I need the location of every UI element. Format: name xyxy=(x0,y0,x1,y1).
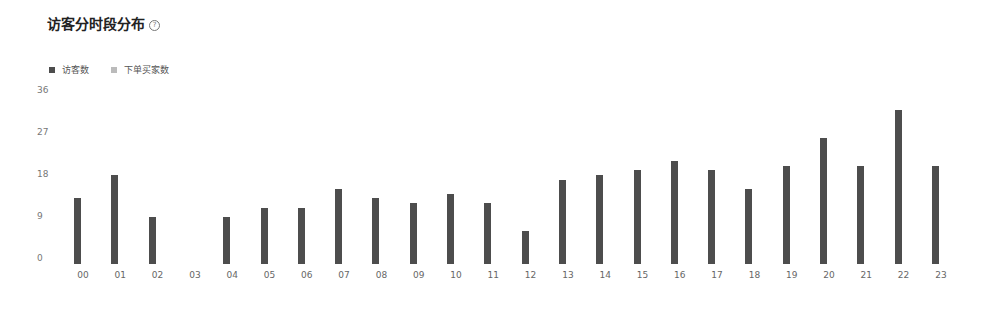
bar-visitors-04[interactable] xyxy=(223,217,230,264)
y-axis-tick-label: 0 xyxy=(37,253,43,263)
y-axis-tick-label: 36 xyxy=(37,85,48,95)
bar-visitors-00[interactable] xyxy=(74,198,81,264)
x-axis-tick-label: 21 xyxy=(851,270,881,280)
x-axis-tick-label: 04 xyxy=(217,270,247,280)
bar-visitors-15[interactable] xyxy=(634,170,641,264)
x-axis-tick-label: 19 xyxy=(777,270,807,280)
x-axis-tick-label: 08 xyxy=(366,270,396,280)
bar-visitors-01[interactable] xyxy=(111,175,118,264)
x-axis-tick-label: 07 xyxy=(329,270,359,280)
bar-visitors-07[interactable] xyxy=(335,189,342,264)
x-axis-tick-label: 12 xyxy=(516,270,546,280)
bar-visitors-05[interactable] xyxy=(261,208,268,264)
bar-visitors-08[interactable] xyxy=(372,198,379,264)
x-axis-tick-label: 06 xyxy=(292,270,322,280)
x-axis-tick-label: 15 xyxy=(628,270,658,280)
x-axis-tick-label: 00 xyxy=(68,270,98,280)
bar-visitors-18[interactable] xyxy=(745,189,752,264)
bar-visitors-06[interactable] xyxy=(298,208,305,264)
bar-visitors-02[interactable] xyxy=(149,217,156,264)
bar-visitors-14[interactable] xyxy=(596,175,603,264)
bar-visitors-13[interactable] xyxy=(559,180,566,264)
y-axis-tick-label: 18 xyxy=(37,169,48,179)
bar-visitors-22[interactable] xyxy=(895,110,902,264)
y-axis-tick-label: 9 xyxy=(37,211,43,221)
x-axis-tick-label: 14 xyxy=(590,270,620,280)
bar-visitors-20[interactable] xyxy=(820,138,827,264)
x-axis-tick-label: 10 xyxy=(441,270,471,280)
bar-chart-plot: 0918273600010203040506070809101112131415… xyxy=(0,0,997,310)
x-axis-tick-label: 03 xyxy=(180,270,210,280)
x-axis-tick-label: 17 xyxy=(702,270,732,280)
bar-visitors-09[interactable] xyxy=(410,203,417,264)
bar-visitors-19[interactable] xyxy=(783,166,790,264)
x-axis-tick-label: 05 xyxy=(255,270,285,280)
x-axis-tick-label: 13 xyxy=(553,270,583,280)
bar-visitors-23[interactable] xyxy=(932,166,939,264)
x-axis-tick-label: 18 xyxy=(739,270,769,280)
x-axis-tick-label: 23 xyxy=(926,270,956,280)
x-axis-tick-label: 20 xyxy=(814,270,844,280)
x-axis-tick-label: 22 xyxy=(889,270,919,280)
bar-visitors-12[interactable] xyxy=(522,231,529,264)
x-axis-tick-label: 16 xyxy=(665,270,695,280)
x-axis-tick-label: 09 xyxy=(404,270,434,280)
x-axis-tick-label: 02 xyxy=(143,270,173,280)
bar-visitors-16[interactable] xyxy=(671,161,678,264)
y-axis-tick-label: 27 xyxy=(37,127,48,137)
x-axis-tick-label: 01 xyxy=(105,270,135,280)
bar-visitors-17[interactable] xyxy=(708,170,715,264)
bar-visitors-21[interactable] xyxy=(857,166,864,264)
bar-visitors-11[interactable] xyxy=(484,203,491,264)
x-axis-tick-label: 11 xyxy=(478,270,508,280)
bar-visitors-10[interactable] xyxy=(447,194,454,264)
